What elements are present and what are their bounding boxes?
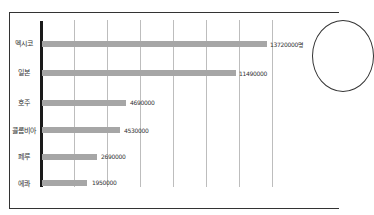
- category-label: 에콰: [8, 178, 40, 188]
- value-label: 13720000명: [270, 40, 304, 49]
- value-label: 1950000: [92, 179, 117, 186]
- value-label: 4690000: [130, 99, 155, 106]
- bar-colombia: [42, 127, 120, 133]
- category-label: 호주: [8, 97, 40, 107]
- value-label: 11490000: [239, 70, 267, 77]
- bar-australia: [42, 100, 126, 106]
- bar-ecuador: [42, 180, 87, 186]
- value-label: 4530000: [124, 127, 149, 134]
- category-label: 콜롬비아: [8, 125, 40, 135]
- bar-japan: [42, 70, 236, 76]
- value-label: 2690000: [101, 153, 126, 160]
- bar-mexico: [42, 41, 267, 47]
- category-label: 페루: [8, 151, 40, 161]
- bar-peru: [42, 154, 97, 160]
- category-label: 멕시코: [8, 38, 40, 48]
- category-label: 일본: [8, 67, 40, 77]
- decorative-circle: [312, 20, 374, 92]
